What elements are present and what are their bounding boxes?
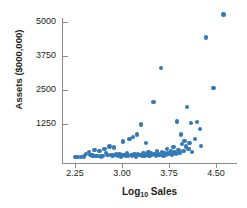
data-point [97, 149, 101, 153]
data-point [211, 86, 215, 90]
data-point [144, 141, 148, 145]
data-point [221, 12, 225, 16]
plot-area [0, 0, 247, 208]
data-point [193, 137, 197, 141]
data-point [187, 141, 191, 145]
data-point [185, 105, 189, 109]
data-point [181, 149, 185, 153]
data-point [189, 121, 193, 125]
data-point [121, 139, 125, 143]
data-point [171, 145, 175, 149]
data-point [107, 144, 111, 148]
scatter-plot-figure: 1250250037505000 2.253.003.754.50 Assets… [0, 0, 247, 208]
data-point [151, 100, 155, 104]
data-point [92, 148, 96, 152]
data-point [135, 132, 139, 136]
data-point [199, 144, 203, 148]
data-point [190, 150, 194, 154]
data-point [112, 145, 116, 149]
data-point [198, 127, 202, 131]
data-point [139, 122, 143, 126]
data-point [179, 132, 183, 136]
data-point [159, 66, 163, 70]
data-point [195, 120, 199, 124]
data-point [175, 119, 179, 123]
data-point [182, 139, 186, 143]
data-point [204, 35, 208, 39]
